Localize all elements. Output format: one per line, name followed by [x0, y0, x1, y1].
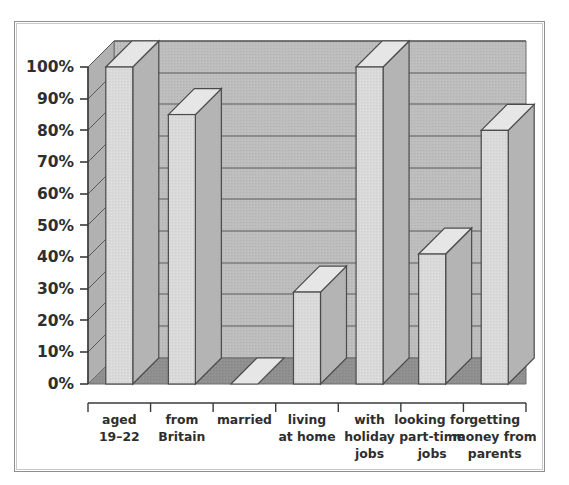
ytick-label-90: 90% [37, 90, 75, 108]
x-axis [88, 403, 526, 412]
ytick-label-0: 0% [48, 375, 75, 393]
xtick-label-line: parents [468, 446, 522, 461]
bar-5[interactable] [356, 41, 409, 384]
ytick-label-40: 40% [37, 248, 75, 266]
xtick-label-line: looking for [394, 412, 471, 427]
bar-front-face-2 [168, 115, 195, 384]
ytick-label-60: 60% [37, 185, 75, 203]
ytick-label-30: 30% [37, 280, 75, 298]
y-axis-ticks [80, 67, 88, 384]
xtick-label-line: money from [453, 429, 537, 444]
xtick-label-line: with [354, 412, 384, 427]
xtick-label-line: living [288, 412, 327, 427]
x-axis-ticks [88, 403, 526, 412]
xtick-label-2: fromBritain [158, 412, 205, 444]
ytick-label-50: 50% [37, 217, 75, 235]
xtick-label-line: married [217, 412, 272, 427]
xtick-label-line: getting [469, 412, 520, 427]
bar-front-face-7 [481, 130, 508, 384]
bar-chart-3d: 100% 90% 80% 70% 60% 50% 40% 30% 20% 10%… [0, 0, 569, 485]
bar-side-face-1 [133, 41, 159, 384]
y-axis-tick-labels: 100% 90% 80% 70% 60% 50% 40% 30% 20% 10%… [26, 58, 74, 393]
bar-7[interactable] [481, 104, 534, 384]
xtick-label-4: livingat home [278, 412, 335, 444]
bar-6[interactable] [419, 228, 472, 384]
xtick-label-line: jobs [417, 446, 447, 461]
bar-side-face-5 [383, 41, 409, 384]
xtick-label-line: aged [102, 412, 137, 427]
x-axis-tick-labels: aged19–22fromBritainmarriedlivingat home… [99, 412, 537, 461]
xtick-label-5: withholidayjobs [344, 412, 395, 461]
bar-side-face-6 [446, 228, 472, 384]
xtick-label-line: from [165, 412, 198, 427]
bar-front-face-5 [356, 67, 383, 384]
bar-front-face-6 [419, 254, 446, 384]
figure-root: 100% 90% 80% 70% 60% 50% 40% 30% 20% 10%… [0, 0, 569, 485]
ytick-label-70: 70% [37, 153, 75, 171]
xtick-label-line: holiday [344, 429, 395, 444]
xtick-label-line: 19–22 [99, 429, 140, 444]
ytick-label-20: 20% [37, 312, 75, 330]
xtick-label-line: at home [278, 429, 335, 444]
y-axis: 100% 90% 80% 70% 60% 50% 40% 30% 20% 10%… [26, 58, 88, 393]
xtick-label-line: Britain [158, 429, 205, 444]
bar-side-face-7 [508, 104, 534, 384]
bar-front-face-1 [106, 67, 133, 384]
ytick-label-100: 100% [26, 58, 74, 76]
ytick-label-10: 10% [37, 343, 75, 361]
bar-1[interactable] [106, 41, 159, 384]
xtick-label-3: married [217, 412, 272, 427]
bar-side-face-2 [195, 89, 221, 384]
ytick-label-80: 80% [37, 122, 75, 140]
bar-4[interactable] [294, 266, 347, 384]
xtick-label-line: jobs [354, 446, 384, 461]
bar-2[interactable] [168, 89, 221, 384]
xtick-label-1: aged19–22 [99, 412, 140, 444]
bar-front-face-4 [294, 292, 321, 384]
